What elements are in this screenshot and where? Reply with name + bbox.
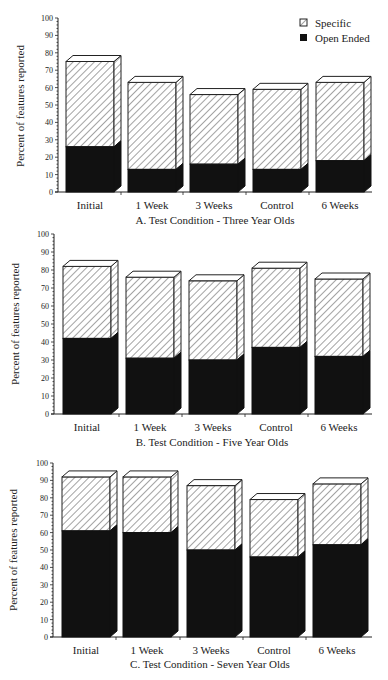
bar-top-face bbox=[252, 262, 307, 268]
bar-side-open-ended bbox=[235, 544, 242, 637]
bar-segment-open-ended bbox=[252, 347, 300, 414]
bar-side-open-ended bbox=[110, 525, 117, 637]
bar-segment-specific bbox=[189, 281, 237, 360]
chart-subtitle: A. Test Condition - Three Year Olds bbox=[136, 214, 295, 226]
bar-segment-open-ended bbox=[187, 550, 235, 637]
bar-segment-specific bbox=[187, 486, 235, 550]
bar-3-weeks bbox=[189, 275, 244, 414]
bar-top-face bbox=[62, 471, 117, 477]
bar-side-open-ended bbox=[171, 527, 178, 637]
bar-top-face bbox=[66, 56, 121, 62]
figure: Specific Open Ended Percent of features … bbox=[0, 0, 388, 680]
bar-segment-specific bbox=[128, 82, 176, 169]
bar-segment-open-ended bbox=[316, 161, 364, 192]
bar-control bbox=[252, 262, 307, 414]
bar-segment-open-ended bbox=[63, 338, 111, 414]
y-tick-label: 70 bbox=[41, 284, 49, 293]
y-tick-label: 40 bbox=[45, 118, 53, 127]
y-tick-label: 80 bbox=[41, 266, 49, 275]
y-tick-label: 10 bbox=[45, 171, 53, 180]
bar-side-open-ended bbox=[298, 551, 305, 637]
x-axis-categories: Initial1 Week3 WeeksControl6 Weeks bbox=[74, 421, 358, 433]
bar-side-open-ended bbox=[300, 341, 307, 414]
x-category-label: 1 Week bbox=[136, 199, 169, 211]
bar-1-week bbox=[126, 271, 181, 414]
bar-side-open-ended bbox=[114, 141, 121, 192]
bar-initial bbox=[62, 471, 117, 637]
y-tick-label: 0 bbox=[44, 633, 48, 642]
bar-initial bbox=[66, 56, 121, 193]
bar-top-face bbox=[128, 76, 183, 82]
bar-side-specific bbox=[176, 76, 183, 169]
bar-segment-open-ended bbox=[190, 164, 238, 192]
bar-segment-specific bbox=[123, 477, 171, 533]
bar-segment-open-ended bbox=[66, 147, 114, 192]
bar-6-weeks bbox=[316, 76, 371, 192]
y-tick-label: 40 bbox=[41, 338, 49, 347]
bar-top-face bbox=[313, 478, 368, 484]
bar-initial bbox=[63, 260, 118, 414]
bar-segment-specific bbox=[250, 500, 298, 557]
x-category-label: 1 Week bbox=[131, 644, 164, 656]
bar-group bbox=[63, 260, 370, 414]
legend: Specific Open Ended bbox=[300, 17, 370, 44]
x-axis-categories: Initial1 Week3 WeeksControl6 Weeks bbox=[77, 199, 359, 211]
bar-segment-specific bbox=[190, 95, 238, 165]
y-tick-label: 20 bbox=[40, 598, 48, 607]
bar-group bbox=[62, 471, 368, 637]
bar-side-specific bbox=[110, 471, 117, 531]
bar-side-specific bbox=[301, 83, 308, 169]
bar-top-face bbox=[126, 271, 181, 277]
bar-side-specific bbox=[361, 478, 368, 545]
bar-segment-specific bbox=[66, 62, 114, 147]
bar-top-face bbox=[315, 273, 370, 279]
y-tick-label: 40 bbox=[40, 563, 48, 572]
y-tick-label: 0 bbox=[49, 188, 53, 197]
y-tick-label: 0 bbox=[45, 410, 49, 419]
bar-1-week bbox=[128, 76, 183, 192]
x-category-label: Initial bbox=[73, 644, 99, 656]
y-tick-label: 70 bbox=[40, 511, 48, 520]
x-category-label: 1 Week bbox=[134, 421, 167, 433]
bar-side-open-ended bbox=[111, 332, 118, 414]
x-category-label: 3 Weeks bbox=[192, 644, 229, 656]
bar-top-face bbox=[253, 83, 308, 89]
bar-segment-specific bbox=[316, 82, 364, 160]
bar-control bbox=[253, 83, 308, 192]
y-tick-label: 60 bbox=[41, 302, 49, 311]
legend-item-specific: Specific bbox=[300, 17, 351, 29]
bar-control bbox=[250, 494, 305, 637]
bar-side-specific bbox=[298, 494, 305, 557]
x-category-label: Control bbox=[260, 199, 294, 211]
bar-side-specific bbox=[300, 262, 307, 347]
bar-side-open-ended bbox=[363, 350, 370, 414]
bar-segment-specific bbox=[253, 89, 301, 169]
bar-segment-open-ended bbox=[128, 169, 176, 192]
chart-subtitle: B. Test Condition - Five Year Olds bbox=[136, 436, 288, 448]
bar-side-specific bbox=[238, 89, 245, 165]
bar-3-weeks bbox=[190, 89, 245, 192]
bar-side-specific bbox=[114, 56, 121, 147]
y-tick-label: 50 bbox=[41, 320, 49, 329]
bar-segment-open-ended bbox=[253, 169, 301, 192]
y-axis-label: Percent of features reported bbox=[14, 45, 26, 167]
y-axis-label: Percent of features reported bbox=[9, 263, 21, 385]
y-tick-label: 100 bbox=[41, 14, 53, 23]
bar-segment-open-ended bbox=[250, 557, 298, 637]
bar-side-specific bbox=[364, 76, 371, 160]
bar-side-open-ended bbox=[364, 155, 371, 192]
bar-top-face bbox=[187, 480, 242, 486]
legend-label-specific: Specific bbox=[315, 17, 351, 29]
y-tick-label: 50 bbox=[45, 101, 53, 110]
x-category-label: Control bbox=[259, 421, 293, 433]
bar-segment-open-ended bbox=[62, 531, 110, 637]
y-tick-label: 90 bbox=[40, 476, 48, 485]
bar-segment-specific bbox=[315, 279, 363, 356]
bar-top-face bbox=[250, 494, 305, 500]
bar-segment-specific bbox=[63, 266, 111, 338]
y-tick-label: 60 bbox=[45, 84, 53, 93]
chart-subtitle: C. Test Condition - Seven Year Olds bbox=[130, 658, 290, 670]
bar-segment-open-ended bbox=[123, 533, 171, 637]
y-tick-label: 20 bbox=[45, 153, 53, 162]
legend-item-open-ended: Open Ended bbox=[300, 32, 370, 44]
